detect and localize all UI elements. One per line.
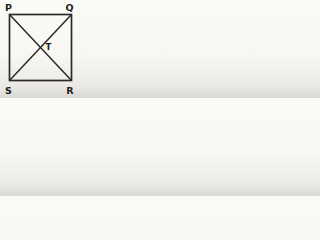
- vertex-label-r: R: [66, 85, 74, 96]
- figure-square-with-diagonals: P Q S R T: [0, 0, 83, 98]
- vertex-label-p: P: [5, 2, 12, 13]
- intersection-label-t: T: [46, 42, 52, 52]
- vertex-label-q: Q: [65, 2, 73, 13]
- diagram-canvas: P Q S R T: [0, 0, 83, 98]
- vertex-label-s: S: [5, 85, 12, 96]
